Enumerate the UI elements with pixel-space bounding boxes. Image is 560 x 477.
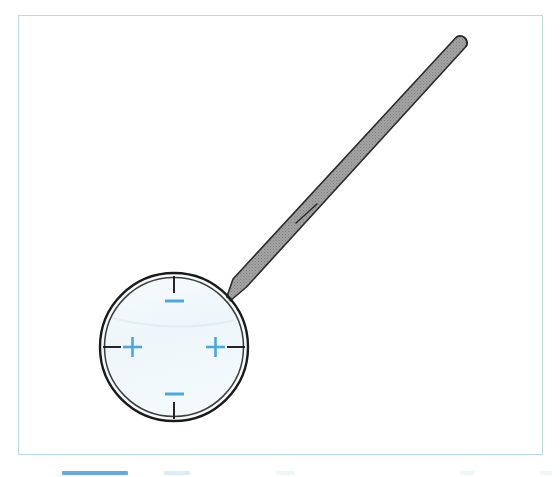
cropped-footer-strip (0, 466, 560, 477)
screenshot-root (0, 0, 560, 477)
magnifier-illustration (0, 0, 560, 477)
magnifier-handle (224, 36, 468, 306)
footer-chip-4 (540, 471, 552, 475)
footer-chip-0 (62, 471, 128, 475)
handle-rod (224, 36, 468, 306)
lens-assembly (100, 273, 248, 421)
footer-chip-1 (164, 471, 190, 475)
footer-chip-3 (460, 471, 474, 475)
footer-chip-2 (276, 471, 294, 475)
